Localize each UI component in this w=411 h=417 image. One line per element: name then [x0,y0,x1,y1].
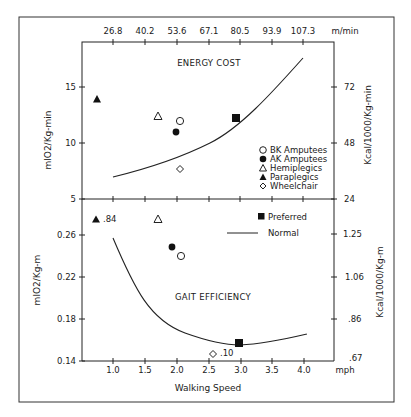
y-left-top-title: mlO2/Kg-min [43,111,53,170]
lower-left-labels: 0.26 0.22 0.18 0.14 [57,230,76,366]
tick-label: .86 [348,314,362,324]
tick-label: 48 [344,138,355,148]
legend-wheelchair: Wheelchair [270,181,318,191]
tick-label: 1.5 [138,365,152,375]
y-right-bottom-title: Kcal/1000/Kg-m [375,246,385,317]
tick-label: 26.8 [104,26,123,36]
legend-open-circle-icon [260,147,267,154]
tick-label: 93.9 [263,26,282,36]
energy-hemi-marker [154,112,162,120]
energy-bk-marker [176,117,183,124]
gait-hemi-marker [154,215,162,223]
tick-label: 3.5 [265,365,279,375]
gait-wheelchair-marker [210,351,217,358]
legend-filled-triangle-icon [260,174,267,181]
bottom-axis-labels: 1.0 1.5 2.0 2.5 3.0 3.5 4.0 [106,365,311,375]
chart-figure: 26.8 40.2 53.6 67.1 80.5 93.9 107.3 m/mi… [0,0,411,417]
tick-label: 1.06 [345,272,364,282]
tick-label: 2.5 [202,365,216,375]
upper-right-labels: 72 48 24 [344,82,355,204]
energy-wheelchair-marker [177,166,184,173]
legend-diamond-icon [260,183,266,189]
gait-para-marker [92,216,100,223]
tick-label: 2.0 [170,365,184,375]
legend-normal: Normal [268,228,299,238]
tick-label: .67 [349,353,363,363]
tick-label: 72 [344,82,355,92]
tick-label: 0.18 [57,314,76,324]
tick-label: 67.1 [200,26,219,36]
x-axis-title: Walking Speed [175,383,242,393]
y-right-top-title: Kcal/1000/Kg-min [363,85,373,165]
top-axis-labels: 26.8 40.2 53.6 67.1 80.5 93.9 107.3 [104,26,316,36]
tick-label: 107.3 [291,26,315,36]
tick-label: 40.2 [136,26,155,36]
outer-frame [19,17,394,402]
tick-label: 4.0 [297,365,311,375]
tick-label: 0.26 [57,230,76,240]
energy-cost-title: ENERGY COST [177,58,241,68]
tick-label: 15 [65,82,76,92]
tick-label: 0.22 [57,272,76,282]
gait-ak-marker [169,244,176,251]
tick-label: 1.0 [106,365,120,375]
tick-label: 3.0 [234,365,248,375]
upper-left-labels: 15 10 5 [65,82,76,204]
legend-filled-circle-icon [260,156,267,163]
gait-para-value: .84 [103,214,117,224]
energy-para-marker [93,95,101,103]
energy-legend: BK Amputees AK Amputees Hemiplegics Para… [260,145,328,191]
y-left-bottom-title: mlO2/Kg-m [32,255,42,306]
legend-preferred: Preferred [268,212,307,222]
energy-preferred-marker [232,114,240,122]
tick-label: 1.25 [343,229,362,239]
tick-label: 53.6 [168,26,187,36]
gait-legend: Preferred Normal [227,212,307,238]
tick-label: 5 [71,194,76,204]
tick-label: 80.5 [231,26,250,36]
lower-right-labels: 1.25 1.06 .86 .67 [343,229,364,363]
gait-preferred-marker [235,339,243,347]
legend-filled-square-icon [258,213,265,220]
gait-efficiency-title: GAIT EFFICIENCY [175,292,252,302]
legend-open-triangle-icon [260,165,267,172]
tick-label: 0.14 [57,356,76,366]
tick-label: 10 [65,138,76,148]
tick-label: 24 [344,194,355,204]
energy-ak-marker [173,129,180,136]
top-units-label: m/min [331,26,358,36]
bottom-units-label: mph [335,365,354,375]
gait-wheelchair-value: .10 [220,348,234,358]
gait-bk-marker [177,252,184,259]
